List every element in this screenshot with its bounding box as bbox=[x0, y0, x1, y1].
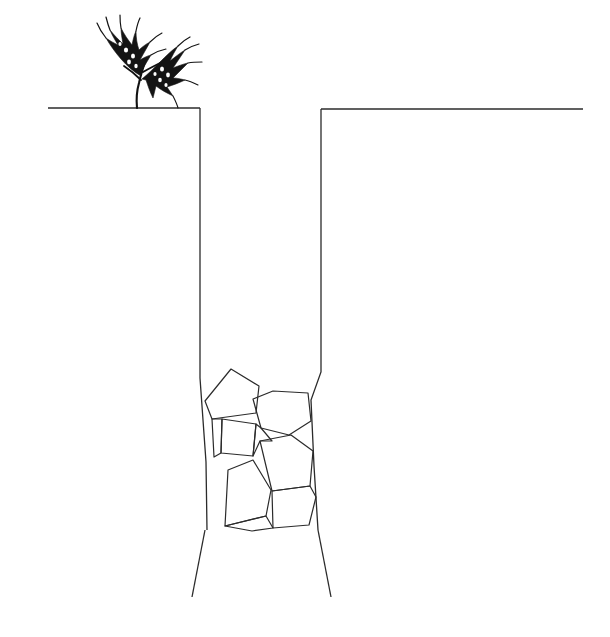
drawing-background bbox=[0, 0, 610, 637]
trench-cross-section-drawing bbox=[0, 0, 610, 637]
figure-canvas: Cross-section of a deep narrow trench wi… bbox=[0, 0, 610, 637]
